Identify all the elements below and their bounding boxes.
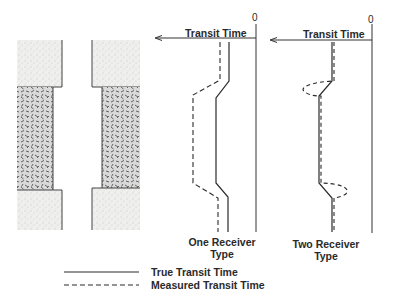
washout-zone-left — [17, 87, 53, 190]
bottom-formation-right — [92, 188, 140, 230]
caption-one-receiver: One Receiver Type — [177, 236, 267, 260]
two-receiver-panel — [270, 24, 372, 233]
caption-line2: Type — [281, 250, 371, 262]
caption-line2: Type — [177, 248, 267, 260]
caption-two-receiver: Two Receiver Type — [281, 238, 371, 262]
top-formation-left — [17, 40, 62, 87]
axis-title-one: Transit Time — [185, 27, 247, 39]
top-formation-right — [92, 40, 140, 87]
true-transit-curve — [216, 42, 229, 232]
origin-label-one: 0 — [252, 12, 258, 23]
one-receiver-panel — [155, 24, 256, 232]
caption-line1: Two Receiver — [281, 238, 371, 250]
measured-transit-curve — [303, 42, 347, 232]
legend-measured-label: Measured Transit Time — [151, 279, 265, 291]
origin-label-two: 0 — [368, 14, 374, 25]
borehole-right-wall — [92, 40, 140, 230]
washout-zone-right — [102, 87, 140, 188]
axis-title-two: Transit Time — [303, 28, 365, 40]
caption-line1: One Receiver — [177, 236, 267, 248]
bottom-formation-left — [17, 190, 62, 230]
borehole-left-wall — [17, 40, 62, 230]
legend-true-label: True Transit Time — [151, 266, 238, 278]
